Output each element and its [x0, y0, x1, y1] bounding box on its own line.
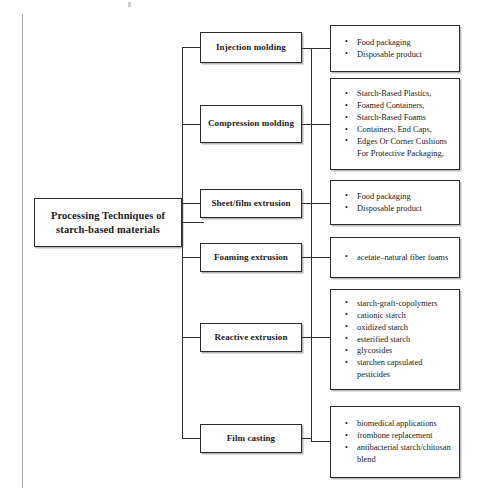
- connector-foaming-to-spine: [302, 257, 311, 258]
- connector-injection-to-spine: [302, 48, 311, 49]
- outputs-reactive-extrusion-list: starch-graft-copolymers cationic starch …: [331, 298, 459, 381]
- connector-main-spine: [182, 47, 183, 438]
- node-injection-molding-label: Injection molding: [212, 42, 290, 53]
- connector-to-reactive-extrusion: [182, 337, 200, 338]
- list-item: biomedical applications: [357, 418, 453, 430]
- list-item: Disposable product: [357, 203, 453, 215]
- node-film-casting: Film casting: [200, 424, 302, 453]
- outputs-injection-molding: Food packaging Disposable product: [330, 25, 460, 72]
- connector-to-compression-molding: [182, 124, 200, 125]
- flowchart-diagram: Processing Techniques of starch-based ma…: [0, 0, 477, 501]
- list-item: oxidized starch: [357, 322, 453, 334]
- root-node-label: Processing Techniques of starch-based ma…: [35, 209, 181, 236]
- scan-artifact-vertical-line: [22, 14, 23, 488]
- root-node: Processing Techniques of starch-based ma…: [34, 198, 182, 247]
- list-item: Containers, End Caps,: [357, 124, 453, 136]
- node-compression-molding: Compression molding: [200, 105, 302, 143]
- list-item: Food packaging: [357, 37, 453, 49]
- node-foaming-extrusion-label: Foaming extrusion: [210, 252, 292, 263]
- list-item: acetate–natural fiber foams: [357, 252, 453, 264]
- connector-sheetfilm-to-spine: [302, 203, 311, 204]
- connector-compression-to-spine: [302, 124, 311, 125]
- scan-artifact-speck: [128, 2, 131, 7]
- list-item: frombone replacement: [357, 430, 453, 442]
- connector-reactive-to-spine: [302, 337, 311, 338]
- node-injection-molding: Injection molding: [200, 32, 302, 63]
- list-item: starchen capsulated pesticides: [357, 357, 453, 381]
- outputs-sheet-film-extrusion: Food packaging Disposable product: [330, 180, 460, 225]
- outputs-film-casting-list: biomedical applications frombone replace…: [331, 418, 459, 466]
- connector-spine-to-output-5: [311, 337, 330, 338]
- node-film-casting-label: Film casting: [223, 433, 279, 444]
- outputs-film-casting: biomedical applications frombone replace…: [330, 406, 460, 478]
- list-item: glycosides: [357, 345, 453, 357]
- node-reactive-extrusion-label: Reactive extrusion: [210, 332, 291, 343]
- outputs-compression-molding: Starch-Based Plastics, Foamed Containers…: [330, 78, 460, 170]
- node-reactive-extrusion: Reactive extrusion: [200, 323, 302, 352]
- list-item: esterified starch: [357, 334, 453, 346]
- list-item: Foamed Containers,: [357, 100, 453, 112]
- list-item: starch-graft-copolymers: [357, 298, 453, 310]
- list-item: Disposable product: [357, 49, 453, 61]
- list-item: cationic starch: [357, 310, 453, 322]
- outputs-foaming-extrusion: acetate–natural fiber foams: [330, 237, 460, 278]
- connector-output-spine: [311, 48, 312, 441]
- outputs-injection-molding-list: Food packaging Disposable product: [331, 37, 459, 61]
- connector-spine-to-output-6: [311, 441, 330, 442]
- outputs-foaming-extrusion-list: acetate–natural fiber foams: [331, 252, 459, 264]
- list-item: Food packaging: [357, 191, 453, 203]
- list-item: Starch-Based Foams: [357, 112, 453, 124]
- connector-to-injection-molding: [182, 47, 200, 48]
- node-sheet-film-extrusion-label: Sheet/film extrusion: [207, 198, 294, 209]
- list-item: Edges Or Corner Cushions For Protective …: [357, 136, 453, 160]
- outputs-reactive-extrusion: starch-graft-copolymers cationic starch …: [330, 289, 460, 390]
- outputs-compression-molding-list: Starch-Based Plastics, Foamed Containers…: [331, 88, 459, 160]
- connector-spine-to-output-2: [311, 124, 330, 125]
- outputs-sheet-film-extrusion-list: Food packaging Disposable product: [331, 191, 459, 215]
- node-compression-molding-label: Compression molding: [204, 118, 298, 129]
- list-item: antibacterial starch/chitosan blend: [357, 442, 453, 466]
- list-item: Starch-Based Plastics,: [357, 88, 453, 100]
- connector-spine-to-output-3: [311, 203, 330, 204]
- connector-to-sheet-film-extrusion: [182, 203, 200, 204]
- connector-filmcasting-to-spine: [302, 438, 311, 439]
- node-foaming-extrusion: Foaming extrusion: [200, 243, 302, 272]
- connector-root-stub: [182, 222, 204, 223]
- connector-to-foaming-extrusion: [182, 257, 200, 258]
- node-sheet-film-extrusion: Sheet/film extrusion: [200, 189, 302, 218]
- connector-to-film-casting: [182, 438, 200, 439]
- connector-spine-to-output-4: [311, 257, 330, 258]
- connector-spine-to-output-1: [311, 48, 330, 49]
